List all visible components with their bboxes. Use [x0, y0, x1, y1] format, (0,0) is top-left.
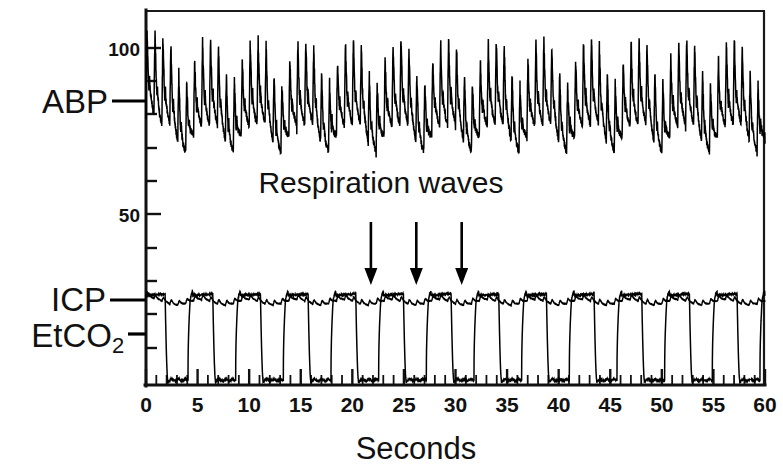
x-tick-label-20: 20: [341, 393, 364, 416]
x-tick-label-15: 15: [289, 393, 313, 416]
abp-waveform-trace: [146, 30, 765, 157]
y-tick-label-50: 50: [119, 205, 140, 226]
x-tick-label-5: 5: [192, 393, 204, 416]
series-label-etco2: EtCO: [31, 317, 112, 354]
x-tick-label-25: 25: [392, 393, 416, 416]
x-tick-label-60: 60: [753, 393, 776, 416]
x-axis-title: Seconds: [356, 431, 477, 466]
x-tick-label-55: 55: [702, 393, 726, 416]
series-label-icp: ICP: [51, 281, 106, 318]
series-label-etco2-group: EtCO 2: [31, 317, 124, 358]
physiological-waveform-chart: 100 50 ABP ICP EtCO 2 051015202530354045…: [0, 0, 783, 467]
x-tick-label-35: 35: [495, 393, 519, 416]
x-tick-label-50: 50: [650, 393, 673, 416]
x-tick-label-0: 0: [140, 393, 152, 416]
respiration-arrow-head-3: [455, 268, 468, 285]
respiration-arrow-head-2: [410, 268, 423, 285]
x-tick-label-40: 40: [547, 393, 570, 416]
annotation-arrow-group: [364, 222, 468, 285]
y-tick-label-100: 100: [108, 39, 140, 60]
respiration-arrow-head-1: [364, 268, 377, 285]
series-label-abp: ABP: [42, 83, 108, 120]
x-axis-tick-labels: 051015202530354045505560: [140, 393, 777, 416]
x-tick-label-10: 10: [237, 393, 260, 416]
series-label-etco2-subscript: 2: [112, 333, 124, 358]
x-tick-label-45: 45: [599, 393, 623, 416]
x-tick-label-30: 30: [444, 393, 467, 416]
annotation-respiration-waves: Respiration waves: [258, 166, 503, 199]
waveform-figure: 100 50 ABP ICP EtCO 2 051015202530354045…: [0, 0, 783, 467]
